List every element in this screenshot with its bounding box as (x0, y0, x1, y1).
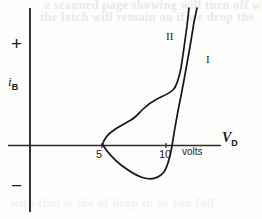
x-axis-label: VD (222, 130, 238, 148)
x-axis-label-symbol: V (222, 130, 231, 145)
curve-label-one: I (206, 53, 210, 65)
x-axis-units-label: volts (182, 146, 203, 157)
y-axis-label-subscript: B (12, 82, 19, 92)
y-axis-positive-marker: + (11, 33, 22, 55)
x-axis-label-subscript: D (231, 138, 238, 148)
y-axis-label: iB (8, 74, 18, 92)
y-axis-negative-marker: − (11, 175, 22, 197)
axes-group (8, 8, 221, 212)
iv-characteristic-figure (0, 0, 262, 219)
curve-label-two: II (166, 30, 173, 42)
x-tick-label-10: 10 (159, 148, 171, 160)
x-tick-label-5: 5 (96, 148, 102, 160)
